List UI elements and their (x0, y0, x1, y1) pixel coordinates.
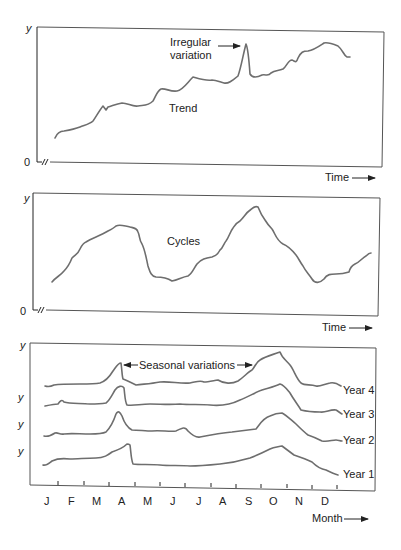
x-axis-label: Month (312, 512, 343, 524)
cycles-frame (33, 193, 380, 316)
month-labels: J F M A M J J A S O N D (44, 495, 329, 507)
origin-label: 0 (20, 305, 26, 317)
month-label: A (219, 495, 227, 507)
series-year-1 (43, 444, 338, 475)
y-axis-label: y (23, 192, 31, 204)
axis-break-icon (37, 27, 48, 165)
seasonal-variations-label: Seasonal variations (139, 359, 236, 371)
y-axis-label-year4: y (19, 339, 27, 351)
month-label: J (170, 495, 176, 507)
y-axis-label: y (25, 22, 33, 34)
month-label: A (118, 495, 126, 507)
x-axis-label: Time (322, 321, 346, 333)
series-year-2 (44, 412, 342, 441)
y-axis-label-year2: y (17, 418, 25, 430)
trend-label: Trend (169, 102, 197, 114)
series-label-year-3: Year 3 (343, 408, 374, 420)
month-label: F (68, 495, 75, 507)
irregular-label-line1: Irregular (170, 36, 211, 48)
seasonal-panel: y y y y J F M A M J J A (17, 339, 376, 524)
origin-label: 0 (24, 156, 30, 168)
trend-frame (37, 27, 384, 167)
trend-panel: y 0 Time Irregular variation Trend (24, 22, 384, 183)
irregular-label-line2: variation (170, 49, 212, 61)
month-label: D (321, 495, 329, 507)
month-label: N (295, 495, 303, 507)
series-label-year-2: Year 2 (343, 434, 374, 446)
cycles-label: Cycles (167, 235, 201, 247)
series-label-year-4: Year 4 (343, 384, 374, 396)
x-axis-label: Time (325, 171, 349, 183)
axis-break-icon (33, 193, 44, 313)
y-axis-label-year3: y (17, 391, 25, 403)
time-series-components-figure: y 0 Time Irregular variation Trend y 0 T… (0, 0, 401, 550)
cycles-panel: y 0 Time Cycles (20, 192, 380, 333)
month-label: M (92, 495, 101, 507)
series-year-3 (45, 384, 342, 414)
month-label: M (143, 495, 152, 507)
month-label: O (269, 495, 278, 507)
cycles-curve (52, 206, 371, 282)
month-label: J (44, 495, 50, 507)
series-label-year-1: Year 1 (343, 468, 374, 480)
y-axis-label-year1: y (17, 445, 25, 457)
month-label: S (245, 495, 252, 507)
month-label: J (196, 495, 202, 507)
